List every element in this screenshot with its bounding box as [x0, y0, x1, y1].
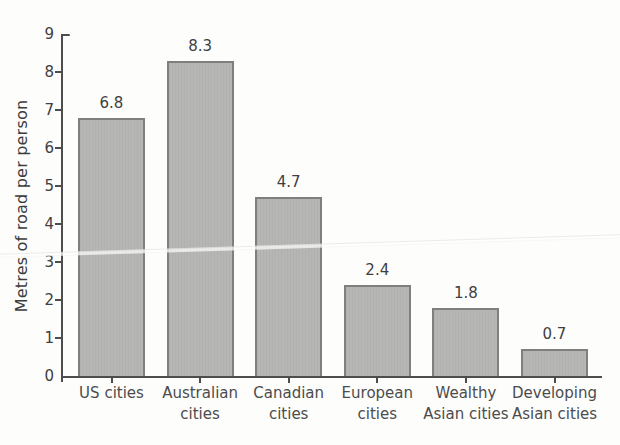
- y-tick: [55, 337, 63, 339]
- y-tick-label: 2: [22, 291, 54, 309]
- bar-value-label: 1.8: [436, 283, 496, 303]
- x-axis-line: [61, 376, 602, 378]
- y-tick: [55, 185, 63, 187]
- bar-value-label: 8.3: [170, 36, 230, 56]
- bar: [78, 118, 145, 376]
- bar: [167, 61, 234, 376]
- y-tick: [55, 109, 63, 111]
- bar: [255, 197, 322, 376]
- y-tick: [55, 261, 63, 263]
- bar-value-label: 0.7: [525, 324, 585, 344]
- y-tick: [55, 147, 63, 149]
- y-tick-label: 4: [22, 215, 54, 233]
- y-tick-label: 7: [22, 101, 54, 119]
- category-label-line: Developing: [493, 383, 617, 404]
- y-axis-title: Metres of road per person: [12, 100, 31, 313]
- y-tick-label: 1: [22, 329, 54, 347]
- y-tick-label: 5: [22, 177, 54, 195]
- bar: [344, 285, 411, 376]
- y-tick-label: 3: [22, 253, 54, 271]
- y-tick-label: 8: [22, 63, 54, 81]
- bar-chart: Metres of road per person 01234567896.8U…: [0, 0, 620, 445]
- bar-value-label: 6.8: [82, 93, 142, 113]
- bar: [521, 349, 588, 376]
- bar-value-label: 4.7: [259, 172, 319, 192]
- category-label-line: Asian cities: [493, 404, 617, 425]
- y-tick: [55, 299, 63, 301]
- y-tick-label: 6: [22, 139, 54, 157]
- y-tick-label: 9: [22, 25, 54, 43]
- category-label: DevelopingAsian cities: [493, 383, 617, 425]
- bar-value-label: 2.4: [347, 260, 407, 280]
- bar: [432, 308, 499, 376]
- y-axis-line: [61, 34, 63, 382]
- y-tick: [55, 71, 63, 73]
- y-axis-top-tick: [63, 34, 70, 36]
- y-tick: [55, 223, 63, 225]
